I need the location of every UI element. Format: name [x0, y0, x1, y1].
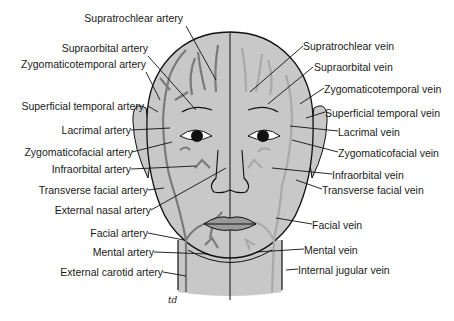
label-external-nasal-artery: External nasal artery — [55, 204, 151, 216]
label-zygomaticotemporal-vein: Zygomaticotemporal vein — [324, 83, 441, 95]
label-infraorbital-vein: Infraorbital vein — [332, 169, 404, 181]
label-lacrimal-artery: Lacrimal artery — [62, 124, 131, 136]
label-transverse-facial-vein: Transverse facial vein — [322, 184, 424, 196]
label-supratrochlear-artery: Supratrochlear artery — [84, 12, 183, 24]
label-transverse-facial-artery: Transverse facial artery — [39, 184, 148, 196]
label-external-carotid-artery: External carotid artery — [60, 266, 163, 278]
label-supraorbital-vein: Supraorbital vein — [314, 61, 393, 73]
label-internal-jugular-vein: Internal jugular vein — [298, 264, 390, 276]
label-mental-artery: Mental artery — [93, 246, 154, 258]
label-lacrimal-vein: Lacrimal vein — [338, 126, 400, 138]
label-superficial-temporal-artery: Superficial temporal artery — [21, 100, 144, 112]
label-supratrochlear-vein: Supratrochlear vein — [303, 40, 394, 52]
label-infraorbital-artery: Infraorbital artery — [52, 163, 131, 175]
label-zygomaticotemporal-artery: Zygomaticotemporal artery — [21, 58, 146, 70]
label-supraorbital-artery: Supraorbital artery — [62, 42, 148, 54]
label-superficial-temporal-vein: Superficial temporal vein — [325, 107, 440, 119]
label-zygomaticofacial-vein: Zygomaticofacial vein — [338, 147, 439, 159]
label-facial-artery: Facial artery — [90, 227, 148, 239]
label-zygomaticofacial-artery: Zygomaticofacial artery — [24, 146, 133, 158]
label-facial-vein: Facial vein — [312, 219, 362, 231]
artist-signature: td — [168, 295, 177, 305]
label-mental-vein: Mental vein — [304, 244, 358, 256]
face-vasculature-diagram: Supratrochlear artery Supraorbital arter… — [0, 0, 454, 321]
